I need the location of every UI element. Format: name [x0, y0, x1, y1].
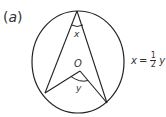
- equation-lhs: x: [131, 55, 137, 66]
- angle-arc-x: [72, 25, 84, 27]
- fraction-one-half: 1 2: [150, 52, 156, 69]
- chord-top-left: [45, 11, 77, 93]
- radius-right: [80, 71, 107, 103]
- radius-left: [45, 71, 80, 93]
- chord-top-right: [77, 11, 107, 103]
- equation-equals: =: [139, 55, 147, 66]
- equation: x = 1 2 y: [131, 52, 165, 69]
- central-angle-label: y: [75, 83, 82, 93]
- fraction-denominator: 2: [151, 61, 156, 69]
- fraction-numerator: 1: [151, 52, 156, 60]
- equation-rhs: y: [159, 55, 165, 66]
- center-label: O: [74, 58, 82, 69]
- inscribed-angle-label: x: [73, 29, 80, 39]
